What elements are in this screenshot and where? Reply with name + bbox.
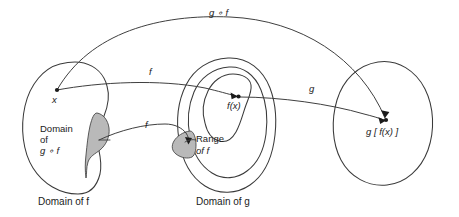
range-of-f-region	[172, 131, 196, 158]
function-composition-figure: g ∘ f f f g x f(x) g [ f(x) ] Domain of …	[0, 0, 459, 217]
range-of-f-label-line1: Range	[196, 133, 224, 144]
g-arrow-path	[240, 97, 384, 120]
point-gfx-dot	[384, 118, 388, 122]
g-arrow-label: g	[309, 83, 314, 94]
point-gfx-label: g [ f(x) ]	[366, 126, 398, 137]
middle-set-outline	[178, 58, 276, 192]
domain-of-composition-region	[85, 113, 109, 178]
middle-set-inner-ring-outline	[188, 67, 266, 178]
middle-set-caption: Domain of g	[196, 196, 250, 208]
f-lower-arrow-label: f	[145, 119, 148, 130]
point-fx-label: f(x)	[227, 100, 241, 111]
point-x-dot	[55, 88, 59, 92]
left-set-inner-label-line2: of	[40, 134, 48, 145]
f-upper-arrow-label: f	[149, 66, 152, 77]
left-set-inner-label-line1: Domain	[40, 123, 73, 134]
f-upper-arrow-path	[57, 82, 236, 96]
point-x-label: x	[52, 94, 57, 105]
composition-arrowhead	[381, 110, 389, 118]
range-of-f-label-line2: of f	[196, 145, 209, 156]
point-fx-dot	[236, 94, 240, 98]
composition-arrow-label: g ∘ f	[209, 7, 228, 18]
left-set-inner-label-line3: g ∘ f	[40, 145, 59, 156]
left-set-caption: Domain of f	[38, 196, 89, 208]
right-set-outline	[333, 62, 432, 186]
